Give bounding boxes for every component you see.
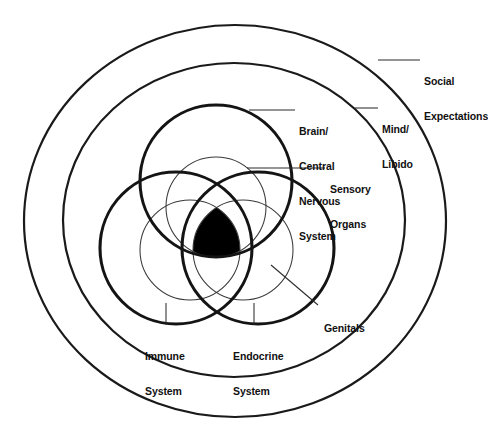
label-social-expectations-line-2: Expectations — [424, 111, 488, 123]
label-immune-system: Immune System — [145, 328, 185, 421]
label-genitals-line-1: Genitals — [324, 323, 365, 335]
label-immune-system-line-1: Immune — [145, 351, 185, 363]
label-mind-libido: Mind/ Libido — [382, 101, 413, 194]
label-endocrine-system-line-2: System — [233, 386, 283, 398]
label-genitals: Genitals — [324, 300, 365, 358]
label-mind-libido-line-2: Libido — [382, 159, 413, 171]
label-sensory-organs: Sensory Organs — [330, 161, 371, 254]
label-social-expectations: Social Expectations — [424, 53, 488, 146]
label-immune-system-line-2: System — [145, 386, 185, 398]
label-endocrine-system-line-1: Endocrine — [233, 351, 283, 363]
label-sensory-organs-line-1: Sensory — [330, 184, 371, 196]
label-mind-libido-line-1: Mind/ — [382, 124, 413, 136]
label-social-expectations-line-1: Social — [424, 76, 488, 88]
label-sensory-organs-line-2: Organs — [330, 219, 371, 231]
label-endocrine-system: Endocrine System — [233, 328, 283, 421]
label-brain-line-1: Brain/ — [299, 126, 340, 138]
